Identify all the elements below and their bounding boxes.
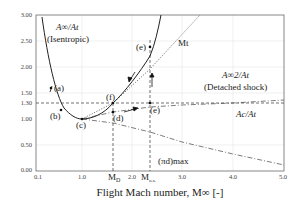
chart: 3.00 2.50 2.00 1.50 1.30 1.00 0.50 0.00 … bbox=[0, 0, 295, 207]
point-e-label: (e) bbox=[150, 105, 160, 115]
x-axis: 0.1 1.0 2.0 3.0 4.0 5.0 MD Mo.s. Flight … bbox=[34, 172, 287, 198]
x-tick-label: 4.0 bbox=[229, 173, 237, 180]
y-tick-label: 1.00 bbox=[21, 115, 32, 122]
x-axis-title: Flight Mach number, M∞ [-] bbox=[97, 186, 224, 198]
point-f-label: (f) bbox=[106, 92, 115, 102]
arrows bbox=[50, 72, 154, 112]
mos-tick-label: Mo.s. bbox=[141, 172, 156, 183]
isentropic-sublabel: (Isentropic) bbox=[47, 34, 89, 44]
y-tick-label: 2.50 bbox=[21, 37, 32, 44]
y-tick-label: 1.30 bbox=[21, 99, 32, 106]
annotations: A∞/At (Isentropic) Mt A∞2/At (Detached s… bbox=[47, 22, 267, 166]
y-axis: 3.00 2.50 2.00 1.50 1.30 1.00 0.50 0.00 bbox=[21, 11, 32, 173]
ac-label: Ac/At bbox=[235, 109, 256, 119]
x-tick-label: 2.0 bbox=[128, 173, 136, 180]
y-tick-label: 1.50 bbox=[21, 89, 32, 96]
y-tick-label: 0.50 bbox=[21, 141, 32, 148]
point-a-label: (a) bbox=[54, 83, 64, 93]
md-tick-label: MD bbox=[108, 172, 121, 183]
point-b-label: (b) bbox=[50, 111, 61, 121]
point-c-label: (c) bbox=[76, 120, 86, 130]
point-d-label: (d) bbox=[113, 113, 124, 123]
x-tick-label: 3.0 bbox=[178, 173, 186, 180]
detached-sublabel: (Detached shock) bbox=[204, 82, 267, 92]
isentropic-label: A∞/At bbox=[55, 22, 79, 32]
mt-label: Mt bbox=[178, 38, 189, 48]
detached-label: A∞2/At bbox=[221, 70, 249, 80]
pi-label: (πd)max bbox=[158, 156, 189, 166]
y-tick-label: 2.00 bbox=[21, 63, 32, 70]
y-tick-label: 0.00 bbox=[21, 166, 32, 173]
x-tick-label: 1.0 bbox=[78, 173, 86, 180]
point-e-upper-label: (e) bbox=[136, 42, 146, 52]
x-tick-label: 5.0 bbox=[279, 173, 287, 180]
y-tick-label: 3.00 bbox=[21, 11, 32, 18]
guide-lines bbox=[36, 40, 284, 171]
x-tick-label: 0.1 bbox=[34, 173, 42, 180]
